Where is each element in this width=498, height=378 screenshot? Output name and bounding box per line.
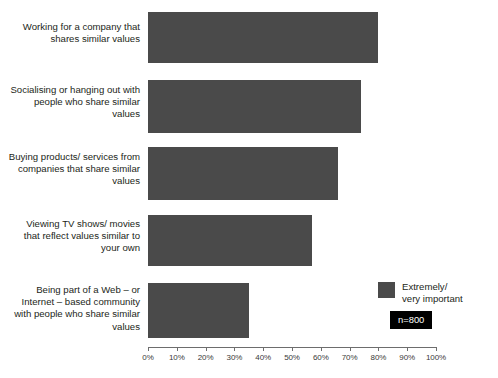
category-label-1: Socialising or hanging out with people w… — [8, 84, 140, 121]
x-tick — [436, 347, 437, 351]
x-tick — [234, 347, 235, 351]
x-tick — [263, 347, 264, 351]
category-label-2: Buying products/ services from companies… — [8, 151, 140, 188]
bar-track-1 — [148, 80, 436, 133]
legend-label: Extremely/ very important — [402, 281, 463, 304]
x-tick — [206, 347, 207, 351]
legend-swatch-icon — [378, 282, 395, 298]
bar-track-2 — [148, 147, 436, 200]
x-tick — [321, 347, 322, 351]
bar-track-0 — [148, 12, 436, 63]
category-label-4: Being part of a Web – or Internet – base… — [8, 284, 140, 333]
x-tick-label: 100% — [416, 353, 456, 362]
x-tick — [148, 347, 149, 351]
chart-row: Socialising or hanging out with people w… — [0, 80, 498, 133]
x-tick — [292, 347, 293, 351]
bar-2 — [148, 147, 338, 200]
x-tick — [177, 347, 178, 351]
x-tick — [378, 347, 379, 351]
bar-4 — [148, 283, 249, 338]
legend: Extremely/ very important — [378, 281, 463, 304]
chart-row: Working for a company that shares simila… — [0, 12, 498, 63]
category-label-0: Working for a company that shares simila… — [8, 21, 140, 45]
bar-track-3 — [148, 215, 436, 266]
bar-3 — [148, 215, 312, 266]
sample-size-badge: n=800 — [390, 311, 432, 329]
chart-row: Viewing TV shows/ movies that reflect va… — [0, 215, 498, 266]
chart-row: Buying products/ services from companies… — [0, 147, 498, 200]
bar-1 — [148, 80, 361, 133]
x-tick — [407, 347, 408, 351]
category-label-3: Viewing TV shows/ movies that reflect va… — [8, 218, 140, 255]
x-tick — [350, 347, 351, 351]
bar-0 — [148, 12, 378, 63]
bar-chart-figure: Working for a company that shares simila… — [0, 0, 498, 378]
